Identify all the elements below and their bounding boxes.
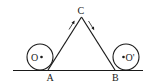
left-arrow-icon xyxy=(69,21,75,30)
left-circle-center-dot xyxy=(40,56,43,59)
right-slope xyxy=(82,17,116,70)
point-a-label: A xyxy=(47,72,55,83)
point-b-label: B xyxy=(112,72,119,83)
left-slope xyxy=(48,17,82,70)
apex-label: C xyxy=(78,5,85,16)
physics-diagram: O O' C A B xyxy=(0,0,150,84)
right-circle-label: O' xyxy=(126,52,135,63)
right-circle-center-dot xyxy=(122,56,125,59)
left-circle-label: O xyxy=(31,52,38,63)
